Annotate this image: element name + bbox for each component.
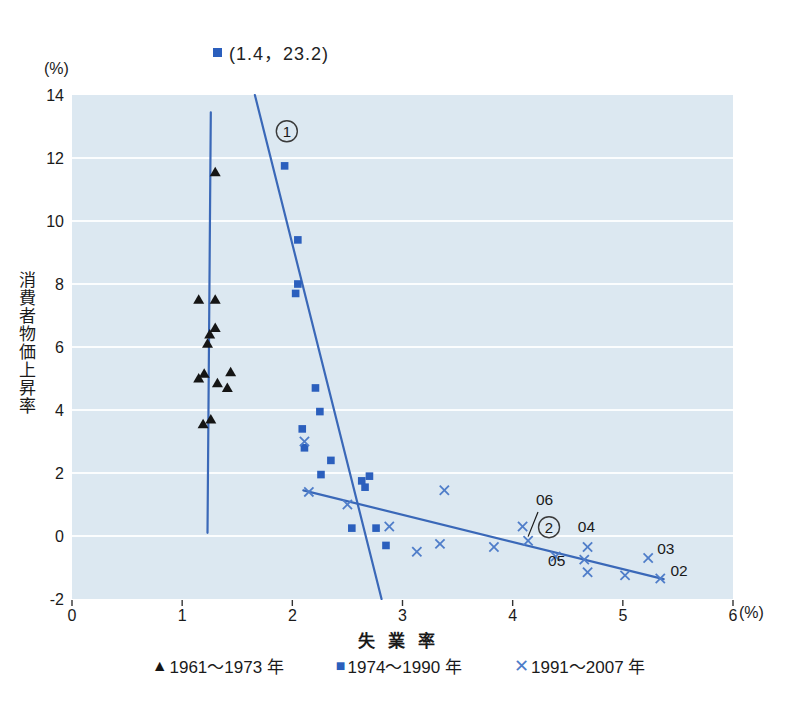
data-point-1974-1990-0 (281, 162, 289, 170)
data-point-1974-1990-14 (372, 524, 380, 532)
data-point-1974-1990-6 (298, 425, 306, 433)
legend-label-1974-1990: 1974～1990 年 (348, 653, 462, 678)
data-point-1974-1990-5 (316, 408, 324, 416)
y-axis-unit-label: (%) (44, 60, 69, 78)
data-point-1974-1990-12 (361, 483, 369, 491)
square-marker-icon (213, 48, 222, 57)
data-point-1974-1990-15 (382, 542, 390, 550)
x-tick-label-2: 2 (288, 607, 297, 624)
x-tick-label-1: 1 (178, 607, 187, 624)
data-point-1974-1990-13 (348, 524, 356, 532)
data-point-1974-1990-1 (294, 236, 302, 244)
year-label-04: 04 (578, 518, 596, 535)
data-point-1974-1990-8 (327, 457, 335, 465)
legend-item-1974-1990: ■ 1974～1990 年 (336, 653, 462, 678)
y-tick-label-12: 12 (46, 150, 64, 167)
outlier-annotation: (1.4，23.2) (213, 39, 329, 65)
phillips-curve-figure: (1.4，23.2) (%) 消費者物価上昇率 0123456141210864… (0, 0, 797, 724)
x-axis-title: 失 業 率 (0, 627, 797, 652)
x-tick-label-0: 0 (68, 607, 77, 624)
data-point-1974-1990-2 (294, 280, 302, 288)
y-tick-label-14: 14 (46, 87, 64, 104)
circled-label-text-1: 1 (283, 123, 291, 140)
x-tick-label-3: 3 (398, 607, 407, 624)
y-tick-label-2: 2 (55, 465, 64, 482)
year-label-03: 03 (657, 540, 674, 557)
x-tick-label-4: 4 (508, 607, 517, 624)
year-label-06: 06 (536, 491, 553, 508)
y-tick-label-4: 4 (55, 402, 64, 419)
y-tick-label-0: 0 (55, 528, 64, 545)
data-point-1974-1990-4 (312, 384, 320, 392)
x-axis-unit-label: (%) (739, 604, 764, 622)
legend-item-1991-2007: ✕ 1991～2007 年 (514, 653, 645, 678)
y-tick-label--2: -2 (50, 591, 64, 608)
year-label-05: 05 (548, 552, 565, 569)
y-tick-label-6: 6 (55, 339, 64, 356)
legend-item-1961-1973: ▲ 1961～1973 年 (152, 653, 284, 678)
triangle-marker-icon: ▲ (152, 658, 168, 674)
legend-label-1991-2007: 1991～2007 年 (531, 653, 645, 678)
year-label-02: 02 (670, 562, 687, 579)
x-tick-label-6: 6 (729, 607, 738, 624)
chart-legend: ▲ 1961～1973 年 ■ 1974～1990 年 ✕ 1991～2007 … (0, 653, 797, 678)
plot-area: 012345614121086420-2120605040302 (0, 0, 797, 724)
data-point-1974-1990-10 (366, 472, 374, 480)
data-point-1974-1990-3 (292, 290, 300, 298)
square-marker-icon: ■ (336, 658, 346, 674)
data-point-1974-1990-9 (317, 471, 325, 479)
outlier-annotation-text: (1.4，23.2) (229, 39, 329, 65)
circled-label-text-2: 2 (545, 519, 553, 536)
x-tick-label-5: 5 (618, 607, 627, 624)
y-tick-label-8: 8 (55, 276, 64, 293)
x-marker-icon: ✕ (514, 657, 529, 675)
y-tick-label-10: 10 (46, 213, 64, 230)
y-axis-title: 消費者物価上昇率 (17, 271, 34, 415)
legend-label-1961-1973: 1961～1973 年 (169, 653, 283, 678)
